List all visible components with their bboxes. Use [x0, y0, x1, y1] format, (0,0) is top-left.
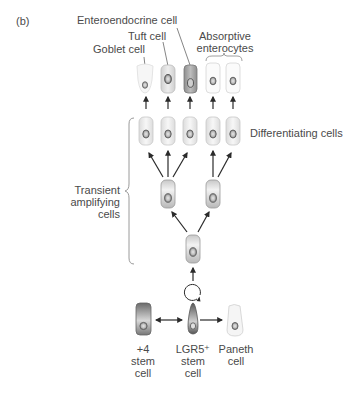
absorptive-enterocyte-2: [226, 63, 240, 93]
differentiating-cell-3: [183, 117, 197, 145]
differentiating-cell-1: [139, 117, 153, 145]
ta-cell-bottom: [186, 235, 200, 263]
leader-tuft: [163, 42, 168, 66]
absorptive-bracket: [206, 53, 242, 61]
lineage-diagram: [0, 0, 360, 399]
differentiating-cell-5: [226, 117, 240, 145]
transient-amplifying-brace: [125, 118, 134, 264]
differentiating-cells-row: [139, 117, 240, 145]
ta-cell-right: [206, 180, 220, 208]
goblet-cell: [137, 64, 153, 93]
lgr5-stem-cell: [188, 303, 198, 334]
arrows-to-terminal: [146, 97, 233, 109]
arrows-to-ta-tier: [172, 212, 209, 232]
leader-lines: [144, 28, 190, 66]
paneth-cell: [227, 305, 243, 337]
tuft-cell: [161, 65, 175, 93]
self-renewal-loop-icon: [184, 284, 200, 301]
arrows-to-differentiating: [149, 151, 231, 177]
leader-enteroendocrine: [177, 28, 190, 65]
enteroendocrine-cell: [184, 65, 197, 93]
differentiating-cell-4: [206, 117, 220, 145]
absorptive-enterocyte-1: [206, 63, 220, 93]
ta-cell-left: [161, 180, 175, 208]
plus4-stem-cell: [136, 303, 151, 335]
differentiating-cell-2: [161, 117, 175, 145]
